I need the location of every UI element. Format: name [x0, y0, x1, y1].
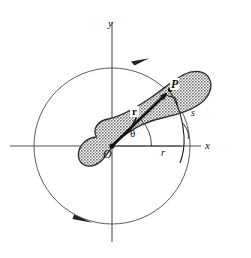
rotation-arrow-bottom-icon — [73, 215, 93, 223]
origin-label: O — [103, 148, 112, 160]
figure-canvas — [0, 0, 251, 258]
rotation-arrow-top-icon — [131, 58, 149, 65]
angle-theta-label: θ — [130, 128, 135, 139]
x-axis-label: x — [205, 140, 210, 151]
mechanics-figure: y x O P r θ s r — [0, 0, 251, 258]
vector-r-label: r — [130, 106, 139, 117]
point-p-label: P — [170, 78, 179, 90]
y-axis-label: y — [108, 18, 113, 29]
radius-r-label: r — [161, 148, 165, 158]
rigid-body-shape — [78, 71, 211, 166]
arc-s-label: s — [191, 108, 195, 118]
